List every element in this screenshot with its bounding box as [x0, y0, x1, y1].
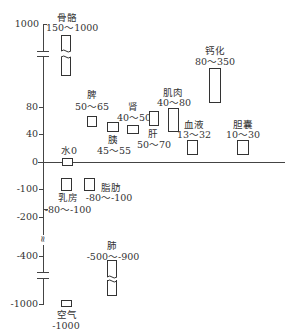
liver-label: 肝 [143, 128, 163, 139]
tick-label-80: 80 [2, 102, 38, 112]
tick-40 [39, 134, 43, 135]
spleen-range: 50～65 [74, 101, 110, 112]
tick-label-minus1000: -1000 [2, 299, 38, 309]
air-label: 空气 [54, 309, 80, 320]
tick-label-1000: 1000 [3, 19, 39, 29]
calcification-range: 80～350 [193, 56, 237, 67]
calcification-box [209, 68, 221, 103]
tick-minus1000 [39, 304, 43, 305]
liver-range: 50～70 [134, 139, 174, 150]
tick-minus400 [39, 256, 43, 257]
zero-baseline [38, 162, 285, 163]
kidney-label: 肾 [123, 101, 143, 112]
axis-wave-break-icon: ≈ [37, 233, 49, 245]
air-range: -1000 [48, 320, 84, 331]
gallbladder-box [237, 140, 249, 155]
pancreas-box [107, 122, 119, 132]
kidney-box [127, 125, 139, 134]
tick-minus200 [39, 217, 43, 218]
tick-label-minus200: -200 [2, 212, 38, 222]
breast-label: 乳房 [55, 192, 81, 203]
bone-break-wave-icon [60, 48, 72, 60]
calcification-label: 钙化 [202, 45, 228, 56]
breast-range: -80～-100 [44, 204, 92, 215]
axis-break-mark [37, 56, 49, 57]
spleen-label: 脾 [82, 89, 102, 100]
tick-label-minus400: -400 [2, 251, 38, 261]
liver-box [149, 111, 159, 126]
gallbladder-range: 10～30 [222, 129, 264, 140]
breast-leader-line [43, 209, 48, 210]
tick-minus100 [39, 189, 43, 190]
water-label: 水0 [58, 145, 80, 156]
water-box [62, 158, 73, 166]
tick-label-minus100: -100 [2, 184, 38, 194]
breast-box [61, 178, 72, 191]
pancreas-range: 45～55 [95, 145, 133, 156]
axis-break-mark [37, 278, 49, 279]
axis-break-mark [37, 51, 49, 52]
bone-range: 150～1000 [46, 22, 94, 33]
tick-80 [39, 107, 43, 108]
fat-box [84, 178, 95, 191]
kidney-range: 40～50 [116, 112, 152, 123]
spleen-box [87, 116, 97, 127]
blood-box [187, 140, 198, 155]
tick-label-0: 0 [2, 157, 38, 167]
tick-label-40: 40 [2, 129, 38, 139]
pancreas-label: 胰 [103, 134, 123, 145]
muscle-range: 40～80 [154, 97, 194, 108]
axis-break-mark [37, 272, 49, 273]
lung-break-wave-icon [106, 274, 118, 284]
blood-range: 13～32 [174, 129, 214, 140]
y-axis-line [43, 24, 44, 305]
air-box [61, 300, 72, 307]
lung-label: 肺 [102, 240, 122, 251]
fat-range: -80～-100 [85, 192, 133, 203]
